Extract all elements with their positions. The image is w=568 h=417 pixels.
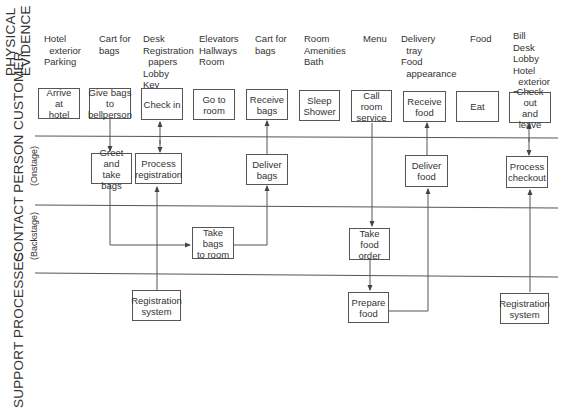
support-registration-system-left: Registration system	[132, 290, 181, 321]
customer-action-call-room-service: Call room service	[351, 90, 392, 122]
customer-action-receive-bags: Receive bags	[246, 89, 288, 120]
support-prepare-food: Prepare food	[348, 292, 389, 323]
onstage-action-process-registration: Process registration	[135, 153, 182, 184]
onstage-action-process-checkout: Process checkout	[506, 156, 548, 188]
backstage-action-take-bags-to-room: Take bags to room	[192, 227, 234, 259]
customer-action-go-to-room: Go to room	[193, 89, 235, 120]
customer-action-eat: Eat	[456, 91, 499, 122]
customer-action-check-out: Check out and leave	[509, 92, 551, 123]
onstage-action-deliver-bags: Deliver bags	[246, 154, 288, 185]
customer-action-sleep: Sleep Shower	[299, 90, 340, 121]
line-of-visibility	[35, 205, 558, 208]
service-blueprint-diagram: PHYSICAL EVIDENCE CUSTOMER CONTACT PERSO…	[0, 0, 568, 417]
customer-action-receive-food: Receive food	[403, 91, 446, 122]
line-of-interaction	[35, 136, 558, 138]
customer-action-check-in: Check in	[141, 88, 183, 120]
customer-action-arrive: Arrive at hotel	[38, 88, 80, 119]
backstage-action-take-food-order: Take food order	[349, 228, 390, 260]
line-of-internal-interaction	[35, 273, 558, 277]
onstage-action-greet: Greet and take bags	[91, 153, 132, 184]
connector-lines	[0, 0, 568, 417]
support-registration-system-right: Registration system	[500, 293, 549, 324]
customer-action-give-bags: Give bags to bellperson	[89, 88, 131, 119]
onstage-action-deliver-food: Deliver food	[405, 155, 448, 187]
